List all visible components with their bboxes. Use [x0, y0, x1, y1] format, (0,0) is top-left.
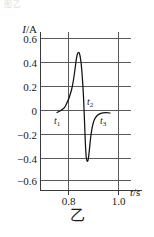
y-tick-label--0.6: −0.6 — [17, 175, 37, 187]
curve-annotations: t1 t2 t3 — [54, 96, 107, 128]
y-tick-label-0.6: 0.6 — [23, 33, 37, 45]
current-vs-time-chart: I/A 0.6 0.4 0.2 0 −0.2 −0.4 −0.6 0.8 1.0… — [0, 0, 154, 237]
horizontal-gridlines — [40, 39, 131, 181]
y-tick-label--0.2: −0.2 — [17, 129, 37, 141]
y-tick-label--0.4: −0.4 — [17, 153, 37, 165]
figure-container: 图乙 I/A 0.6 — [0, 0, 154, 237]
y-tick-labels: 0.6 0.4 0.2 0 −0.2 −0.4 −0.6 — [17, 33, 37, 187]
y-tick-label-0: 0 — [32, 105, 38, 117]
current-curve — [57, 52, 110, 161]
x-axis-label: t/s — [130, 186, 140, 198]
figure-caption: 乙 — [0, 206, 154, 224]
annotation-t2: t2 — [87, 96, 94, 109]
annotation-t3: t3 — [100, 115, 107, 128]
axes — [40, 32, 142, 191]
annotation-t1: t1 — [54, 115, 61, 128]
y-tick-label-0.2: 0.2 — [23, 81, 37, 93]
y-tick-label-0.4: 0.4 — [23, 57, 37, 69]
